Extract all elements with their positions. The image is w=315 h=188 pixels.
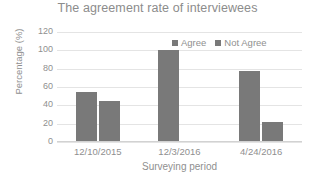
- gridline: [57, 69, 302, 70]
- y-tick-label: 20: [19, 119, 53, 128]
- y-tick-label: 40: [19, 100, 53, 109]
- gridline: [57, 50, 302, 51]
- y-tick-label: 0: [19, 137, 53, 146]
- bar: [262, 122, 283, 142]
- gridline: [57, 142, 302, 143]
- x-tick-label: 4/24/2016: [220, 146, 302, 157]
- y-tick-label: 100: [19, 45, 53, 54]
- bar: [99, 101, 120, 142]
- bar: [239, 71, 260, 143]
- legend-swatch-icon: [215, 40, 221, 46]
- y-tick-label: 60: [19, 82, 53, 91]
- x-axis-title: Surveying period: [57, 161, 302, 172]
- plot-area: [57, 32, 302, 142]
- y-axis-tick-labels: 020406080100120: [15, 32, 57, 142]
- chart-title: The agreement rate of interviewees: [0, 1, 315, 15]
- gridline: [57, 32, 302, 33]
- x-tick-label: 12/10/2015: [57, 146, 139, 157]
- legend-item: Agree: [172, 38, 206, 48]
- y-tick-label: 80: [19, 64, 53, 73]
- legend-item: Not Agree: [215, 38, 266, 48]
- y-tick-label: 120: [19, 27, 53, 36]
- bar: [158, 50, 179, 142]
- legend-swatch-icon: [172, 40, 178, 46]
- x-axis-tick-labels: 12/10/201512/3/20164/24/2016: [57, 146, 302, 160]
- bar-chart: The agreement rate of interviewees Perce…: [0, 0, 315, 188]
- x-tick-label: 12/3/2016: [139, 146, 221, 157]
- bar: [76, 92, 97, 142]
- legend-label: Not Agree: [224, 38, 266, 48]
- legend: AgreeNot Agree: [172, 38, 267, 48]
- legend-label: Agree: [181, 38, 206, 48]
- gridline: [57, 87, 302, 88]
- x-axis-line: [57, 141, 302, 142]
